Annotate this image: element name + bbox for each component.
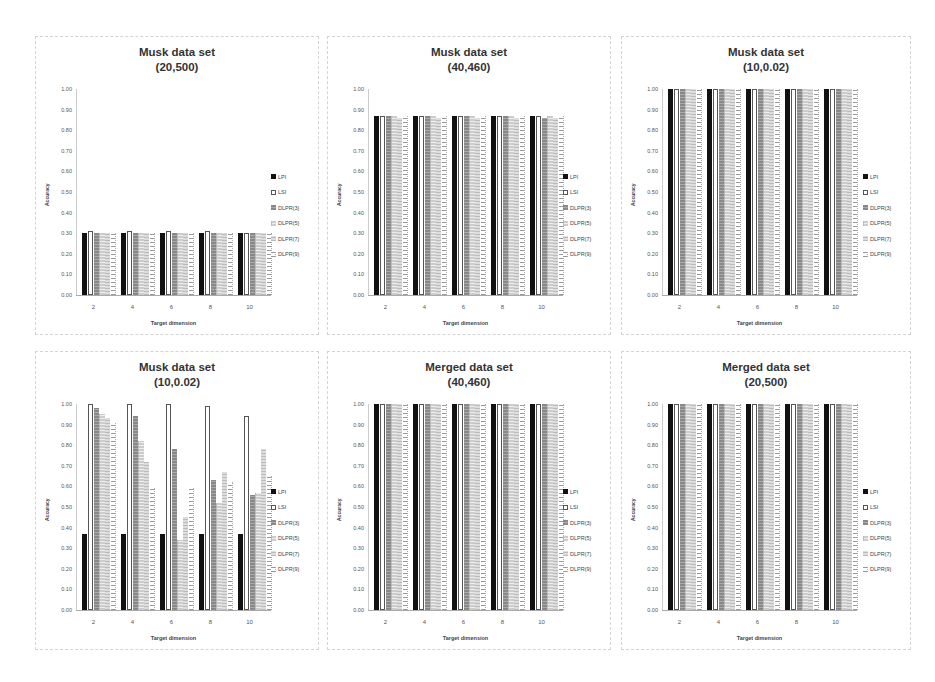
x-tick-label: 2 (84, 619, 104, 625)
bar-dlpr7-dim-4 (730, 89, 735, 295)
x-axis (368, 295, 563, 296)
legend-swatch-icon (271, 221, 276, 226)
bar-dlpr7-dim-6 (475, 118, 480, 295)
chart-subtitle: (10,0.02) (36, 375, 318, 390)
y-tick-label: 0.10 (342, 271, 364, 277)
bar-dlpr9-dim-2 (111, 233, 116, 295)
chart-panel-musk-10-0.02-bottom: Musk data set(10,0.02)0.000.100.200.300.… (35, 351, 319, 650)
bar-dlpr3-dim-8 (797, 89, 802, 295)
legend-label: DLPR(5) (278, 220, 299, 226)
bar-dlpr5-dim-2 (685, 89, 690, 295)
y-tick-label: 0.00 (50, 607, 72, 613)
x-axis-label: Target dimension (662, 635, 857, 641)
legend-swatch-icon (271, 174, 276, 179)
bar-lsi-dim-6 (458, 116, 463, 295)
chart-panel-musk-10-0.02-top: Musk data set(10,0.02)0.000.100.200.300.… (621, 36, 911, 335)
legend-item: DLPR(5) (863, 216, 891, 232)
legend-label: DLPR(3) (870, 205, 891, 211)
bar-dlpr7-dim-10 (847, 89, 852, 295)
bar-dlpr3-dim-6 (172, 449, 177, 610)
bar-dlpr3-dim-10 (542, 118, 547, 295)
bar-lsi-dim-2 (380, 116, 385, 295)
legend-item: LSI (271, 185, 299, 201)
legend-label: DLPR(5) (570, 220, 591, 226)
bar-lsi-dim-10 (244, 416, 249, 610)
y-tick-label: 0.40 (636, 210, 658, 216)
bar-lpi-dim-4 (707, 89, 712, 295)
x-tick-label: 10 (532, 304, 552, 310)
chart-title-line: Musk data set (328, 45, 610, 60)
legend-item: LSI (863, 185, 891, 201)
y-tick-label: 0.80 (636, 127, 658, 133)
bar-lsi-dim-6 (458, 404, 463, 610)
y-axis (368, 89, 369, 295)
y-tick-label: 0.60 (50, 168, 72, 174)
bar-dlpr5-dim-4 (724, 404, 729, 610)
bar-dlpr7-dim-4 (436, 404, 441, 610)
bar-lpi-dim-10 (824, 89, 829, 295)
y-axis-label: Accuracy (336, 183, 342, 206)
bar-lpi-dim-4 (121, 233, 126, 295)
x-tick-label: 4 (123, 619, 143, 625)
bar-dlpr7-dim-2 (105, 418, 110, 610)
x-tick-label: 4 (123, 304, 143, 310)
bar-dlpr9-dim-2 (697, 404, 702, 610)
bar-dlpr3-dim-6 (758, 89, 763, 295)
x-tick-label: 10 (240, 619, 260, 625)
bar-lpi-dim-8 (491, 116, 496, 295)
bar-lpi-dim-2 (668, 89, 673, 295)
bar-dlpr9-dim-4 (442, 404, 447, 610)
legend-label: DLPR(7) (570, 551, 591, 557)
bar-lpi-dim-6 (746, 404, 751, 610)
bar-lpi-dim-6 (160, 534, 165, 610)
bar-lpi-dim-2 (668, 404, 673, 610)
y-tick-label: 0.40 (50, 210, 72, 216)
legend-swatch-icon (271, 567, 276, 572)
legend-swatch-icon (271, 520, 276, 525)
bar-lsi-dim-6 (166, 231, 171, 295)
y-tick-label: 0.50 (636, 504, 658, 510)
bar-dlpr3-dim-10 (836, 404, 841, 610)
y-axis (76, 404, 77, 610)
bar-lpi-dim-10 (530, 404, 535, 610)
bar-dlpr5-dim-8 (802, 404, 807, 610)
y-axis-label: Accuracy (336, 498, 342, 521)
legend-item: DLPR(3) (863, 515, 891, 531)
x-tick-label: 6 (454, 304, 474, 310)
legend-swatch-icon (863, 221, 868, 226)
bar-dlpr3-dim-8 (503, 404, 508, 610)
y-tick-label: 0.20 (342, 566, 364, 572)
bar-dlpr7-dim-2 (105, 233, 110, 295)
y-tick-label: 0.60 (342, 168, 364, 174)
y-tick-label: 0.70 (50, 148, 72, 154)
legend-swatch-icon (863, 489, 868, 494)
bar-dlpr7-dim-2 (397, 118, 402, 295)
y-tick-label: 0.90 (636, 107, 658, 113)
legend-label: DLPR(7) (570, 236, 591, 242)
bar-dlpr3-dim-2 (680, 404, 685, 610)
legend-swatch-icon (563, 536, 568, 541)
bar-dlpr9-dim-4 (442, 116, 447, 295)
legend-item: DLPR(9) (271, 247, 299, 263)
bar-lpi-dim-4 (121, 534, 126, 610)
bar-lpi-dim-6 (452, 404, 457, 610)
x-tick-label: 4 (415, 619, 435, 625)
legend-item: DLPR(9) (563, 247, 591, 263)
legend-swatch-icon (563, 236, 568, 241)
y-axis-label: Accuracy (44, 183, 50, 206)
y-tick-label: 0.80 (50, 127, 72, 133)
bar-dlpr7-dim-4 (436, 118, 441, 295)
legend-swatch-icon (271, 551, 276, 556)
y-tick-label: 0.10 (636, 586, 658, 592)
bar-lpi-dim-6 (746, 89, 751, 295)
bar-dlpr9-dim-8 (520, 404, 525, 610)
legend-item: DLPR(9) (863, 562, 891, 578)
y-tick-label: 0.90 (50, 107, 72, 113)
bar-dlpr5-dim-6 (763, 404, 768, 610)
y-axis-label: Accuracy (630, 498, 636, 521)
y-tick-label: 0.50 (50, 189, 72, 195)
x-tick-label: 8 (493, 619, 513, 625)
bar-dlpr7-dim-10 (261, 233, 266, 295)
bar-lsi-dim-2 (88, 404, 93, 610)
y-tick-label: 0.60 (342, 483, 364, 489)
